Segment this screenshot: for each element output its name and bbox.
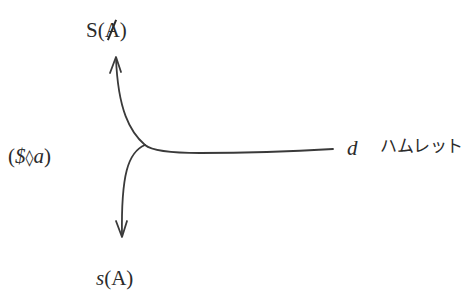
- left-paren: (: [8, 144, 15, 168]
- top-label-suffix: ): [120, 18, 127, 42]
- label-hamlet: ハムレット: [380, 138, 463, 155]
- label-desire-d: d: [347, 138, 358, 159]
- label-signifier-of-barred-other: S(A): [86, 20, 127, 41]
- bottom-label-rest: (A): [104, 266, 133, 290]
- top-label-prefix: S(: [86, 18, 105, 42]
- downward-branch-line: [122, 145, 145, 236]
- horizontal-line: [145, 145, 333, 153]
- barred-a-symbol: A: [105, 20, 120, 41]
- bottom-label-prefix: s: [96, 266, 104, 290]
- right-paren: ): [44, 144, 51, 168]
- object-a-symbol: a: [33, 144, 44, 168]
- label-fantasy-formula: ($◊a): [8, 146, 51, 167]
- label-signified-of-other: s(A): [96, 268, 133, 289]
- barred-subject-symbol: $: [15, 144, 26, 168]
- graph-diagram: S(A) s(A) ($◊a) d ハムレット: [0, 0, 467, 301]
